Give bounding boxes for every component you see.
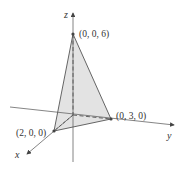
point-x-intercept	[52, 129, 55, 132]
point-z-intercept	[71, 32, 74, 35]
z-axis-label: z	[63, 9, 68, 20]
label-x-intercept: (2, 0, 0)	[16, 128, 46, 139]
y-axis-label: y	[166, 130, 172, 141]
x-axis-label: x	[14, 149, 20, 160]
label-z-intercept: (0, 0, 6)	[79, 29, 109, 40]
tetrahedron-diagram: (0, 0, 6) (0, 3, 0) (2, 0, 0) z y x	[0, 0, 187, 169]
point-y-intercept	[109, 117, 112, 120]
label-y-intercept: (0, 3, 0)	[116, 111, 146, 122]
